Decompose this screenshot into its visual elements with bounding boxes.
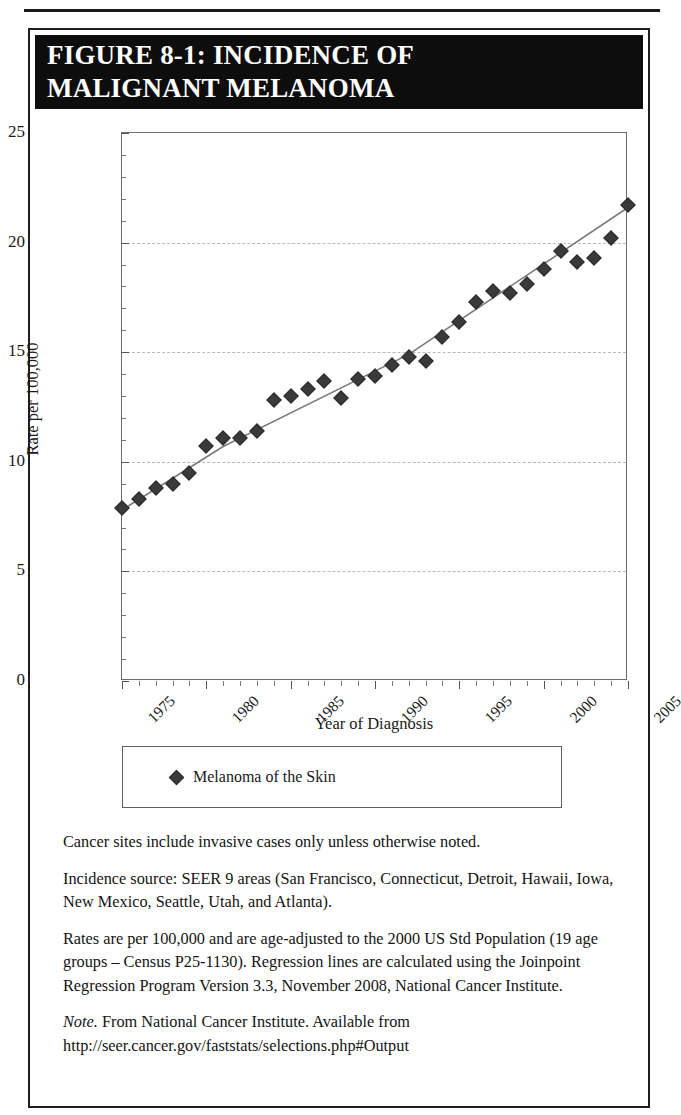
x-minor-tick [257, 681, 258, 686]
figure-note: Incidence source: SEER 9 areas (San Fran… [63, 867, 615, 914]
figure-container: FIGURE 8-1: INCIDENCE OF MALIGNANT MELAN… [28, 28, 650, 1108]
x-minor-tick [476, 681, 477, 686]
x-axis-title: Year of Diagnosis [121, 714, 627, 734]
x-minor-tick [274, 681, 275, 686]
y-tick-label: 15 [0, 341, 25, 361]
x-minor-tick [493, 681, 494, 686]
x-minor-tick [594, 681, 595, 686]
y-tick-label: 25 [0, 122, 25, 142]
x-minor-tick [173, 681, 174, 686]
legend-entry: Melanoma of the Skin [171, 768, 336, 786]
y-tick-label: 10 [0, 451, 25, 471]
x-minor-tick [510, 681, 511, 686]
x-minor-tick [240, 681, 241, 686]
x-tick-mark [122, 681, 123, 689]
x-tick-mark [459, 681, 460, 689]
x-minor-tick [392, 681, 393, 686]
x-minor-tick [442, 681, 443, 686]
x-minor-tick [561, 681, 562, 686]
figure-title-line-2: MALIGNANT MELANOMA [47, 72, 631, 105]
x-tick-mark [375, 681, 376, 689]
y-tick-mark [122, 681, 129, 682]
x-tick-mark [544, 681, 545, 689]
x-minor-tick [527, 681, 528, 686]
figure-title-banner: FIGURE 8-1: INCIDENCE OF MALIGNANT MELAN… [35, 35, 643, 109]
x-tick-mark [628, 681, 629, 689]
x-minor-tick [426, 681, 427, 686]
figure-source-note: Note. From National Cancer Institute. Av… [63, 1010, 615, 1057]
x-minor-tick [409, 681, 410, 686]
chart-area: Rate per 100,000 Year of Diagnosis 05101… [35, 114, 643, 734]
chart-legend: Melanoma of the Skin [122, 746, 562, 808]
source-note-prefix: Note. [63, 1012, 98, 1031]
page-top-rule [24, 9, 660, 12]
figure-note: Rates are per 100,000 and are age-adjust… [63, 927, 615, 998]
x-minor-tick [341, 681, 342, 686]
y-tick-label: 5 [0, 560, 25, 580]
y-axis-title: Rate per 100,000 [23, 342, 43, 455]
x-minor-tick [308, 681, 309, 686]
regression-trend-line [122, 133, 628, 681]
plot-frame [121, 132, 627, 680]
x-minor-tick [223, 681, 224, 686]
figure-page: FIGURE 8-1: INCIDENCE OF MALIGNANT MELAN… [0, 0, 681, 1115]
x-tick-mark [206, 681, 207, 689]
figure-notes: Cancer sites include invasive cases only… [63, 830, 615, 1070]
x-minor-tick [324, 681, 325, 686]
diamond-marker-icon [169, 769, 185, 785]
x-minor-tick [577, 681, 578, 686]
y-tick-label: 20 [0, 232, 25, 252]
x-minor-tick [139, 681, 140, 686]
x-minor-tick [358, 681, 359, 686]
x-minor-tick [611, 681, 612, 686]
y-tick-label: 0 [0, 670, 25, 690]
x-minor-tick [189, 681, 190, 686]
x-tick-label: 2005 [650, 692, 681, 727]
figure-title-line-1: FIGURE 8-1: INCIDENCE OF [47, 39, 631, 72]
x-minor-tick [156, 681, 157, 686]
figure-note: Cancer sites include invasive cases only… [63, 830, 615, 854]
x-tick-mark [291, 681, 292, 689]
legend-entry-label: Melanoma of the Skin [193, 768, 336, 786]
